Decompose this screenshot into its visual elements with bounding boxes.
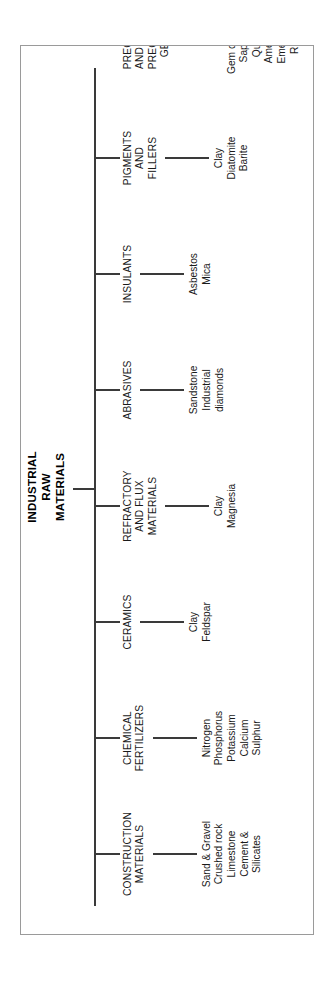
leaf-item: Nitrogen (201, 686, 214, 790)
leaf-list: ClayFeldspar (188, 570, 213, 674)
branch-label-line-1: INSULANTS (122, 222, 134, 326)
branch-label-line-1: CHEMICAL (122, 686, 134, 790)
leaf-item: Sulphur (251, 686, 264, 790)
leaf-item: Asbestos (188, 222, 201, 326)
leaf-list: Sand & GravelCrushed rockLimestoneCement… (201, 802, 264, 906)
branch-label: REFRACTORYAND FLUXMATERIALS (122, 454, 159, 558)
branch-label-line-1: REFRACTORY (122, 454, 134, 558)
branch-stub-line (94, 853, 120, 855)
leaf-item: Limestone (226, 802, 239, 906)
leaf-item: Industrial (201, 338, 214, 442)
branch-stub-line (94, 621, 120, 623)
branch-label-line-3: PRECIOUS (147, 45, 159, 94)
branch-label: CHEMICALFERTILIZERS (122, 686, 147, 790)
leaf-list: SandstoneIndustrialdiamonds (188, 338, 226, 442)
leaf-item: Gem diamond (226, 45, 239, 94)
leaf-item: Ruby (289, 45, 302, 94)
leaf-item: Diatomite (226, 106, 239, 210)
root-label-line-1: INDUSTRIAL (25, 412, 39, 562)
branch-label: INSULANTS (122, 222, 134, 326)
branch-label-line-3: FILLERS (147, 106, 159, 210)
branch-label-line-2: AND SEMI- (134, 45, 146, 94)
leaf-item: Cement & (239, 802, 252, 906)
branch-label-line-2: FERTILIZERS (134, 686, 146, 790)
branch-stub-line (94, 273, 120, 275)
root-label-line-3: MATERIALS (53, 412, 67, 562)
branch-label-line-1: PIGMENTS (122, 106, 134, 210)
diagram-frame: INDUSTRIAL RAW MATERIALS CONSTRUCTIONMAT… (20, 45, 314, 935)
leaf-item: Feldspar (201, 570, 214, 674)
branch-stub-line (94, 505, 120, 507)
leaf-connector-line (140, 621, 184, 623)
leaf-connector-line (140, 389, 184, 391)
leaf-item: Sapphire (238, 45, 251, 94)
leaf-item: Clay (188, 570, 201, 674)
branch-label-line-1: CONSTRUCTION (122, 802, 134, 906)
branch-label-line-1: PRECIOUS (122, 45, 134, 94)
leaf-item: Amethyst (263, 45, 276, 94)
branch-label-line-4: GEMS (159, 45, 171, 94)
root-node: INDUSTRIAL RAW MATERIALS (25, 412, 67, 562)
leaf-item: Clay (213, 454, 226, 558)
branch-label-line-3: MATERIALS (147, 454, 159, 558)
leaf-list: ClayMagnesia (213, 454, 238, 558)
branch-label-line-2: AND (134, 106, 146, 210)
leaf-item: Magnesia (226, 454, 239, 558)
branch-label-line-2: AND FLUX (134, 454, 146, 558)
leaf-list: NitrogenPhosphorusPotassiumCalciumSulphu… (201, 686, 264, 790)
leaf-item: Potassium (226, 686, 239, 790)
branch-label: CONSTRUCTIONMATERIALS (122, 802, 147, 906)
leaf-item: Emeralds (276, 45, 289, 94)
leaf-list: ClayDiatomiteBarite (213, 106, 251, 210)
leaf-item: Silicates (251, 802, 264, 906)
branch-label: ABRASIVES (122, 338, 134, 442)
leaf-item: Sandstone (188, 338, 201, 442)
tree-canvas: INDUSTRIAL RAW MATERIALS CONSTRUCTIONMAT… (21, 46, 313, 934)
leaf-connector-line (140, 273, 184, 275)
branch-stub-line (94, 157, 120, 159)
leaf-list: Gem diamondSapphireQuartzAmethystEmerald… (226, 45, 302, 94)
branch-label-line-1: CERAMICS (122, 570, 134, 674)
root-label-line-2: RAW (39, 412, 53, 562)
leaf-item: Mica (201, 222, 214, 326)
branch-label: PIGMENTSANDFILLERS (122, 106, 159, 210)
trunk-line (94, 68, 96, 906)
leaf-list: AsbestosMica (188, 222, 213, 326)
leaf-item: Phosphorus (213, 686, 226, 790)
leaf-item: diamonds (214, 338, 227, 442)
leaf-item: Crushed rock (213, 802, 226, 906)
leaf-connector-line (165, 505, 209, 507)
leaf-connector-line (153, 737, 197, 739)
branch-label-line-2: MATERIALS (134, 802, 146, 906)
leaf-connector-line (165, 157, 209, 159)
leaf-connector-line (153, 853, 197, 855)
leaf-item: Sand & Gravel (201, 802, 214, 906)
branch-stub-line (94, 737, 120, 739)
leaf-item: Clay (213, 106, 226, 210)
branch-label: CERAMICS (122, 570, 134, 674)
branch-label: PRECIOUSAND SEMI-PRECIOUSGEMS (122, 45, 172, 94)
leaf-item: Quartz (251, 45, 264, 94)
root-connector-line (73, 488, 95, 490)
leaf-item: Barite (238, 106, 251, 210)
leaf-item: Calcium (239, 686, 252, 790)
branch-label-line-1: ABRASIVES (122, 338, 134, 442)
branch-stub-line (94, 389, 120, 391)
